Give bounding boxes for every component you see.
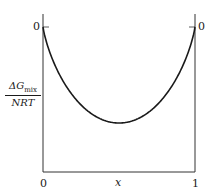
x-tick-one: 1: [192, 178, 199, 189]
y-tick-right-zero: 0: [198, 21, 205, 32]
gibbs-mixing-curve: [43, 27, 195, 123]
y-tick-left-zero: 0: [33, 21, 40, 32]
x-tick-zero: 0: [40, 178, 47, 189]
y-label-numerator: ΔGmix: [5, 80, 41, 96]
y-label-denominator: NRT: [5, 96, 41, 108]
y-axis-label: ΔGmix NRT: [5, 80, 41, 108]
x-axis-label: x: [115, 177, 121, 188]
